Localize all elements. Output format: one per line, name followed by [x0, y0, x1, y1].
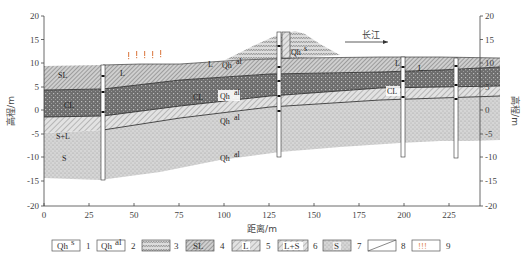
label-sl-mid: L	[120, 69, 125, 78]
river-label: 长江	[362, 29, 380, 40]
legend-item-5: L 5	[232, 240, 271, 251]
svg-text:Qh: Qh	[57, 241, 68, 251]
svg-text:125: 125	[262, 210, 276, 220]
y-axis-right: 20 15 10 5 0 -5 -10 -15 -20 高程/m	[480, 11, 521, 211]
svg-text:-5: -5	[32, 129, 40, 139]
borehole-2	[277, 32, 281, 157]
svg-text:-10: -10	[485, 152, 497, 162]
svg-text:20: 20	[30, 11, 40, 21]
label-l-right2: L	[418, 64, 423, 73]
svg-text:-15: -15	[27, 176, 39, 186]
svg-text:5: 5	[35, 82, 40, 92]
svg-text:s: s	[304, 44, 307, 53]
svg-text:1: 1	[86, 241, 91, 251]
arrow-right-icon	[383, 40, 388, 44]
svg-text:150: 150	[307, 210, 321, 220]
svg-text:5: 5	[266, 241, 271, 251]
svg-text:0: 0	[35, 105, 40, 115]
svg-text:L: L	[243, 241, 249, 251]
svg-text:3: 3	[174, 241, 179, 251]
svg-text:al: al	[234, 150, 241, 159]
label-l-right1: L	[395, 59, 400, 68]
layers	[44, 31, 500, 180]
y-axis-right-title: 高程/m	[510, 96, 521, 126]
svg-text:8: 8	[401, 241, 406, 251]
svg-text:7: 7	[357, 241, 362, 251]
svg-text:-20: -20	[27, 201, 39, 211]
svg-text:10: 10	[485, 58, 495, 68]
legend: Qh s 1 Qh al 2 3 SL 4 L 5	[52, 237, 451, 251]
legend-item-6: L+S 6	[278, 240, 318, 251]
legend-item-8: 8	[368, 240, 406, 251]
y-axis-left: 20 15 10 5 0 -5 -10 -15 -20 高程/m	[5, 11, 44, 211]
svg-text:15: 15	[30, 35, 40, 45]
svg-text:10: 10	[30, 58, 40, 68]
label-l-mid: L	[208, 60, 213, 69]
svg-text:4: 4	[220, 241, 225, 251]
svg-text:15: 15	[485, 35, 495, 45]
svg-text:Qh: Qh	[222, 61, 232, 70]
svg-text:-5: -5	[485, 129, 493, 139]
svg-text:al: al	[115, 237, 122, 247]
borehole-1	[101, 65, 105, 180]
svg-text:5: 5	[485, 82, 490, 92]
svg-text:al: al	[234, 113, 241, 122]
legend-item-3: 3	[142, 240, 179, 251]
river-annotation: 长江	[345, 29, 388, 44]
svg-text:CL: CL	[387, 87, 397, 96]
svg-text:200: 200	[397, 210, 411, 220]
svg-text:Qh: Qh	[291, 48, 301, 57]
svg-text:6: 6	[313, 241, 318, 251]
svg-text:50: 50	[130, 210, 140, 220]
seepage-icon: !!!	[418, 241, 427, 251]
svg-text:Qh: Qh	[220, 117, 230, 126]
borehole-4	[454, 58, 458, 158]
svg-text:Qh: Qh	[101, 241, 112, 251]
legend-item-9: !!! 9	[412, 240, 451, 251]
legend-item-7: S 7	[323, 240, 362, 251]
svg-text:s: s	[71, 237, 75, 247]
svg-text:-15: -15	[485, 176, 497, 186]
svg-text:20: 20	[485, 11, 495, 21]
label-s: S	[62, 154, 66, 163]
seepage-marks	[128, 50, 161, 59]
svg-text:9: 9	[446, 241, 451, 251]
borehole-3	[401, 57, 405, 157]
legend-item-2: Qh al 2	[97, 237, 136, 251]
label-s-plus-l: S+L	[56, 132, 70, 141]
svg-text:225: 225	[442, 210, 456, 220]
svg-text:25: 25	[85, 210, 95, 220]
svg-text:0: 0	[485, 105, 490, 115]
label-cl-left: CL	[64, 101, 74, 110]
svg-text:0: 0	[42, 210, 47, 220]
svg-text:SL: SL	[193, 241, 204, 251]
x-axis: 0 25 50 75 100 125 150 175 200 225 距离/m	[42, 203, 457, 234]
svg-text:175: 175	[352, 210, 366, 220]
svg-text:al: al	[236, 57, 243, 66]
svg-text:2: 2	[131, 241, 136, 251]
svg-text:Qh: Qh	[220, 92, 230, 101]
geological-section-figure: 长江 SL CL S+L S L L Qh al CL Qh al Qh al …	[0, 0, 524, 264]
svg-text:-10: -10	[27, 152, 39, 162]
x-axis-title: 距离/m	[247, 223, 277, 234]
svg-text:L+S: L+S	[284, 241, 300, 251]
svg-text:-20: -20	[485, 201, 497, 211]
legend-item-1: Qh s 1	[52, 237, 91, 251]
svg-text:al: al	[234, 88, 241, 97]
label-cl-right: CL	[386, 86, 400, 96]
legend-item-4: SL 4	[186, 240, 225, 251]
label-cl-mid: CL	[193, 93, 203, 102]
svg-text:Qh: Qh	[220, 154, 230, 163]
embankment-fill-box	[282, 32, 290, 58]
label-sl-left: SL	[58, 71, 67, 80]
svg-text:100: 100	[217, 210, 231, 220]
y-axis-left-title: 高程/m	[5, 96, 16, 126]
svg-text:S: S	[334, 241, 339, 251]
svg-text:75: 75	[175, 210, 185, 220]
